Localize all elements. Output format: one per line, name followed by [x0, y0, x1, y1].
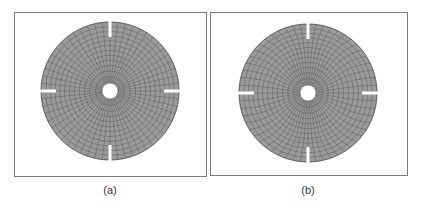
slot-right: [362, 92, 378, 95]
center-hole: [102, 83, 118, 99]
mesh-diagrams: [0, 0, 422, 207]
polar-mesh-disk-a: [40, 21, 180, 161]
slot-bottom: [109, 145, 112, 161]
caption-a: (a): [90, 184, 130, 196]
slot-bottom: [307, 147, 310, 163]
caption-b: (b): [288, 184, 328, 196]
slot-top: [109, 21, 112, 37]
polar-mesh-disk-b: [238, 23, 378, 163]
center-hole: [300, 85, 316, 101]
slot-left: [238, 92, 254, 95]
slot-top: [307, 23, 310, 39]
slot-left: [40, 90, 56, 93]
slot-right: [164, 90, 180, 93]
